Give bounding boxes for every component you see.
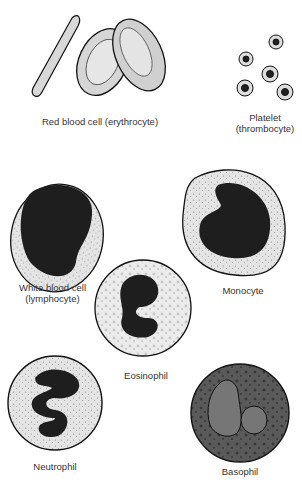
- platelets-illustration: [237, 35, 293, 100]
- lymphocyte-label: White blood cell (lymphocyte): [10, 282, 95, 304]
- rbc-label: Red blood cell (erythrocyte): [30, 116, 170, 127]
- platelet-label-line2: (thrombocyte): [225, 123, 302, 134]
- basophil-illustration: [191, 364, 289, 462]
- monocyte-label: Monocyte: [208, 285, 278, 296]
- lymphocyte-illustration: [2, 177, 111, 299]
- platelet-label-line1: Platelet: [225, 112, 302, 123]
- lymphocyte-label-line1: White blood cell: [10, 282, 95, 293]
- eosinophil-label: Eosinophil: [111, 370, 181, 381]
- platelet-label: Platelet (thrombocyte): [225, 112, 302, 134]
- blood-cells-diagram: [0, 0, 302, 484]
- monocyte-illustration: [183, 170, 285, 276]
- red-blood-cell-illustration: [32, 11, 176, 104]
- basophil-label: Basophil: [205, 466, 275, 477]
- lymphocyte-label-line2: (lymphocyte): [10, 293, 95, 304]
- neutrophil-illustration: [8, 356, 102, 450]
- eosinophil-illustration: [95, 260, 191, 356]
- neutrophil-label: Neutrophil: [20, 461, 90, 472]
